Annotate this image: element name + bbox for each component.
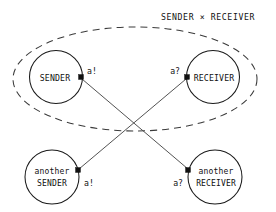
node-another-sender-label-line1: another [35, 167, 70, 176]
port-sender-square[interactable] [79, 75, 84, 80]
port-sender-label: a! [87, 66, 97, 76]
diagram-canvas: SENDER RECEIVER another SENDER another R… [0, 0, 276, 212]
node-another-sender-circle[interactable] [25, 150, 79, 204]
node-sender-label: SENDER [40, 73, 70, 83]
node-another-receiver-label-line2: RECEIVER [196, 179, 236, 188]
node-another-receiver-circle[interactable] [188, 150, 242, 204]
node-receiver-label: RECEIVER [194, 73, 235, 83]
diagram-svg: SENDER RECEIVER another SENDER another R… [0, 0, 276, 212]
connection-sender-to-another-receiver [82, 79, 188, 169]
node-another-sender-label-line2: SENDER [37, 179, 67, 188]
connection-another-sender-to-receiver [79, 79, 186, 169]
node-another-receiver-label-line1: another [199, 167, 234, 176]
port-another-receiver-square[interactable] [186, 168, 191, 173]
port-another-sender-label: a! [84, 178, 94, 188]
port-receiver-label: a? [170, 66, 180, 76]
port-receiver-square[interactable] [185, 75, 190, 80]
port-another-receiver-label: a? [173, 178, 183, 188]
diagram-title: SENDER × RECEIVER [161, 12, 255, 22]
port-another-sender-square[interactable] [76, 168, 81, 173]
